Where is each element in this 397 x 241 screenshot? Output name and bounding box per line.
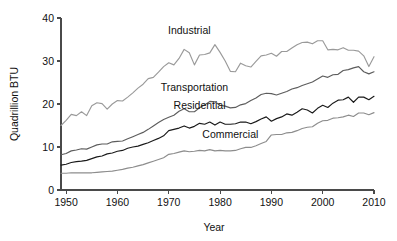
- y-axis-title: Quadrillion BTU: [8, 67, 20, 141]
- line-chart: 010203040 1950196019701980199020002010 I…: [0, 0, 397, 241]
- y-tick-label: 10: [42, 141, 54, 153]
- series-label-commercial: Commercial: [202, 128, 258, 140]
- y-tick-label: 20: [42, 98, 54, 110]
- series-label-transportation: Transportation: [161, 81, 228, 93]
- x-tick-label: 1970: [157, 196, 181, 208]
- series-label-residential: Residential: [174, 99, 226, 111]
- x-tick-label: 1960: [106, 196, 130, 208]
- x-tick-label: 1950: [54, 196, 78, 208]
- series-label-industrial: Industrial: [168, 24, 211, 36]
- chart-canvas: 010203040 1950196019701980199020002010 I…: [0, 0, 397, 241]
- y-axis: 010203040: [42, 12, 61, 196]
- x-axis-title: Year: [203, 221, 225, 233]
- y-tick-label: 40: [42, 12, 54, 24]
- x-axis: 1950196019701980199020002010: [54, 190, 385, 208]
- series-line-commercial: [61, 113, 374, 174]
- y-tick-label: 30: [42, 55, 54, 67]
- y-tick-label: 0: [48, 184, 54, 196]
- x-tick-label: 2010: [362, 196, 386, 208]
- x-tick-label: 1980: [208, 196, 232, 208]
- x-tick-label: 2000: [311, 196, 335, 208]
- x-tick-label: 1990: [260, 196, 284, 208]
